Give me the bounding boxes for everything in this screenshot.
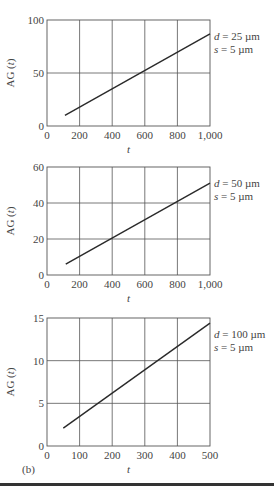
x-tick-label: 200 xyxy=(104,449,121,461)
y-tick-label: 15 xyxy=(33,312,45,324)
x-tick-label: 0 xyxy=(44,129,50,141)
y-tick-label: 0 xyxy=(39,269,45,281)
x-axis-label: t xyxy=(127,463,131,475)
x-tick-label: 400 xyxy=(169,449,186,461)
x-tick-label: 0 xyxy=(44,278,50,290)
annotation-d-value: = 100 µm xyxy=(220,328,266,340)
x-tick-label: 800 xyxy=(169,278,186,290)
y-axis-label: AG (t) xyxy=(4,367,17,396)
x-tick-label: 600 xyxy=(137,278,154,290)
x-tick-label: 400 xyxy=(104,129,121,141)
y-tick-label: 40 xyxy=(33,197,45,209)
y-axis-label-suffix: ) xyxy=(4,367,17,371)
annotation-s: s = 5 µm xyxy=(214,43,254,55)
x-tick-label: 100 xyxy=(71,449,88,461)
annotation-s-value: = 5 µm xyxy=(218,43,253,55)
annotation-s: s = 5 µm xyxy=(214,190,254,202)
x-tick-label: 0 xyxy=(44,449,50,461)
y-axis-label-suffix: ) xyxy=(4,58,17,62)
annotation-s-value: = 5 µm xyxy=(218,341,253,353)
bottom-rule xyxy=(0,483,274,486)
y-tick-label: 50 xyxy=(33,67,45,79)
y-tick-label: 0 xyxy=(39,120,45,132)
annotation-s-value: = 5 µm xyxy=(218,190,253,202)
y-tick-label: 20 xyxy=(33,233,45,245)
annotation-s: s = 5 µm xyxy=(214,341,254,353)
x-tick-label: 300 xyxy=(137,449,154,461)
y-axis-label-prefix: AG ( xyxy=(4,65,17,88)
x-tick-label: 500 xyxy=(202,449,219,461)
y-axis-label-suffix: ) xyxy=(4,206,17,210)
x-tick-label: 1,000 xyxy=(198,129,223,141)
annotation-d-value: = 25 µm xyxy=(220,30,261,42)
annotation-d: d = 50 µm xyxy=(214,177,260,189)
y-tick-label: 5 xyxy=(39,397,45,409)
plot-frame xyxy=(47,167,210,275)
annotation-d: d = 25 µm xyxy=(214,30,260,42)
x-tick-label: 400 xyxy=(104,278,121,290)
chart-2: 02004006008001,0000204060tAG (t)d = 50 µ… xyxy=(4,161,260,304)
y-tick-label: 0 xyxy=(39,440,45,452)
annotation-d-value: = 50 µm xyxy=(220,177,261,189)
y-axis-label: AG (t) xyxy=(4,58,17,87)
y-axis-label: AG (t) xyxy=(4,206,17,235)
chart-3: 0100200300400500051015tAG (t)d = 100 µms… xyxy=(4,312,266,475)
annotation-d: d = 100 µm xyxy=(214,328,266,340)
y-axis-label-prefix: AG ( xyxy=(4,374,17,397)
x-tick-label: 200 xyxy=(71,278,88,290)
panel-label: (b) xyxy=(22,463,35,476)
chart-1: 02004006008001,000050100tAG (t)d = 25 µm… xyxy=(4,14,260,155)
figure: 02004006008001,000050100tAG (t)d = 25 µm… xyxy=(0,0,274,492)
x-axis-label: t xyxy=(127,292,131,304)
x-tick-label: 600 xyxy=(137,129,154,141)
x-tick-label: 800 xyxy=(169,129,186,141)
x-axis-label: t xyxy=(127,143,131,155)
y-tick-label: 10 xyxy=(33,355,45,367)
data-line xyxy=(65,34,210,116)
y-tick-label: 100 xyxy=(28,14,45,26)
data-line xyxy=(66,183,210,264)
x-tick-label: 1,000 xyxy=(198,278,223,290)
data-line xyxy=(63,323,210,428)
x-tick-label: 200 xyxy=(71,129,88,141)
y-axis-label-prefix: AG ( xyxy=(4,213,17,236)
y-tick-label: 60 xyxy=(33,161,45,173)
